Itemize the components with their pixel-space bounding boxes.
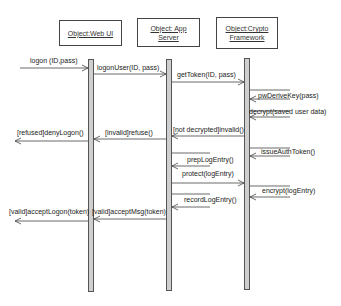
msg-pw-derive-key: pwDeriveKey(pass) bbox=[258, 92, 319, 100]
msg-prep-log-entry: prepLogEntry() bbox=[187, 156, 234, 164]
msg-refused-deny-logon: [refused]denyLogon() bbox=[17, 129, 84, 137]
msg-record-log-entry: recordLogEntry() bbox=[184, 196, 237, 204]
msg-logon-user: logonUser(ID, pass) bbox=[97, 64, 159, 72]
msg-accept-msg: [valid]acceptMsg(token) bbox=[92, 208, 166, 216]
msg-get-token: getToken(ID, pass) bbox=[177, 71, 236, 79]
msg-accept-logon: [valid]acceptLogon(token) bbox=[9, 208, 89, 216]
msg-not-decrypted-invalid: [not decrypted]invalid() bbox=[173, 126, 244, 134]
msg-encrypt: encrypt(logEntry) bbox=[262, 187, 315, 195]
msg-decrypt: decrypt(saved user data) bbox=[249, 108, 326, 116]
msg-protect: protect(logEntry) bbox=[182, 170, 234, 178]
msg-issue-auth-token: issueAuthToken() bbox=[261, 148, 315, 156]
msg-invalid-refuse: [invalid]refuse() bbox=[105, 129, 153, 137]
msg-logon: logon (ID,pass) bbox=[30, 57, 77, 65]
